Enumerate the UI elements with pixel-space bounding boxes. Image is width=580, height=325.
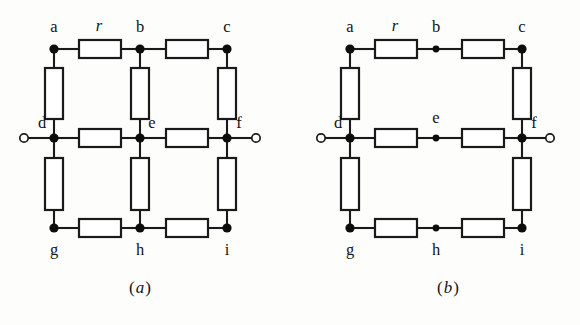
node-label-b: b — [432, 17, 440, 36]
resistance-label-r: r — [96, 16, 103, 35]
node-dot-e — [433, 135, 440, 142]
resistor-h-i — [166, 219, 208, 237]
node-dot-h — [433, 225, 440, 232]
resistor-e-f — [166, 129, 208, 147]
node-dot-i — [517, 223, 526, 232]
node-label-f: f — [236, 113, 242, 132]
node-dot-b — [135, 44, 144, 53]
node-dot-e — [135, 133, 144, 142]
node-dot-d — [49, 133, 58, 142]
terminal-right[interactable] — [252, 134, 260, 142]
node-label-a: a — [50, 17, 58, 36]
caption-close-paren: ) — [145, 278, 151, 297]
node-label-f: f — [531, 113, 537, 132]
node-label-g: g — [346, 240, 354, 259]
resistor-e-h — [131, 158, 149, 210]
node-dot-a — [49, 44, 58, 53]
node-dot-h — [135, 223, 144, 232]
caption-open-paren: ( — [437, 278, 443, 297]
caption-close-paren: ) — [453, 278, 459, 297]
figure-root: abcdefghir(a)abcdefghir(b) — [0, 0, 580, 325]
node-dot-g — [345, 223, 354, 232]
resistor-c-f — [513, 68, 531, 119]
resistor-h-i — [462, 219, 504, 237]
node-dot-b — [433, 46, 440, 53]
resistor-a-b — [79, 40, 121, 58]
resistor-d-e — [375, 129, 417, 147]
node-label-e: e — [432, 108, 439, 127]
node-label-g: g — [50, 240, 58, 259]
node-dot-c — [517, 44, 526, 53]
node-label-b: b — [136, 17, 144, 36]
node-label-d: d — [38, 113, 47, 132]
node-label-h: h — [136, 240, 145, 259]
resistor-b-c — [462, 40, 504, 58]
caption-open-paren: ( — [129, 278, 135, 297]
node-dot-i — [222, 223, 231, 232]
node-label-c: c — [223, 17, 230, 36]
circuit-panel-b: abcdefghir(b) — [317, 16, 554, 297]
resistor-a-d — [341, 68, 359, 119]
node-label-i: i — [225, 240, 230, 259]
circuit-diagram-canvas: abcdefghir(a)abcdefghir(b) — [0, 0, 580, 325]
resistor-d-g — [45, 158, 63, 210]
panel-caption-b: (b) — [437, 278, 459, 297]
resistor-g-h — [79, 219, 121, 237]
resistor-c-f — [218, 68, 236, 119]
node-label-e: e — [148, 113, 155, 132]
node-label-d: d — [334, 113, 343, 132]
node-label-i: i — [520, 240, 525, 259]
node-label-c: c — [518, 17, 525, 36]
resistance-label-r: r — [392, 16, 399, 35]
node-dot-a — [345, 44, 354, 53]
panels-group: abcdefghir(a)abcdefghir(b) — [20, 16, 554, 297]
resistor-d-g — [341, 158, 359, 210]
terminal-left[interactable] — [20, 134, 28, 142]
resistor-a-d — [45, 68, 63, 119]
node-label-h: h — [432, 240, 441, 259]
resistor-g-h — [375, 219, 417, 237]
resistor-d-e — [79, 129, 121, 147]
node-label-a: a — [346, 17, 354, 36]
panel-caption-a: (a) — [129, 278, 151, 297]
caption-letter: b — [444, 278, 453, 297]
caption-letter: a — [136, 278, 145, 297]
node-dot-f — [222, 133, 231, 142]
node-dot-g — [49, 223, 58, 232]
node-dot-d — [345, 133, 354, 142]
node-dot-c — [222, 44, 231, 53]
resistor-b-c — [166, 40, 208, 58]
terminal-left[interactable] — [317, 134, 325, 142]
circuit-panel-a: abcdefghir(a) — [20, 16, 260, 297]
node-dot-f — [517, 133, 526, 142]
resistor-f-i — [513, 158, 531, 210]
resistor-a-b — [375, 40, 417, 58]
resistor-e-f — [462, 129, 504, 147]
terminal-right[interactable] — [546, 134, 554, 142]
resistor-f-i — [218, 158, 236, 210]
resistor-b-e — [131, 68, 149, 119]
